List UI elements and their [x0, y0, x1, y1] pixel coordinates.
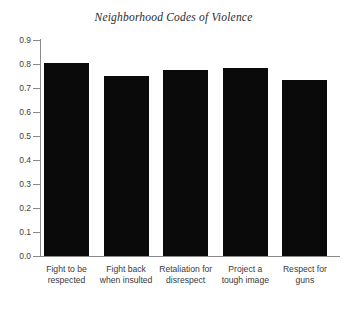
y-axis-tick — [33, 256, 40, 257]
x-axis-category-label-line: guns — [268, 275, 342, 286]
y-axis-tick-label: 0.9 — [5, 36, 31, 45]
y-axis-tick — [33, 88, 40, 89]
bar — [104, 76, 149, 256]
y-axis-tick-label: 0.1 — [5, 228, 31, 237]
y-axis-tick — [33, 208, 40, 209]
bar — [223, 68, 268, 256]
y-axis-tick — [33, 160, 40, 161]
y-axis-tick — [33, 112, 40, 113]
y-axis-tick — [33, 184, 40, 185]
bar-chart-figure: Neighborhood Codes of Violence 0.00.10.2… — [0, 0, 347, 313]
y-axis-tick-label: 0.3 — [5, 180, 31, 189]
bar — [163, 70, 208, 256]
y-axis-tick — [33, 64, 40, 65]
y-axis-tick-label: 0.5 — [5, 132, 31, 141]
y-axis-tick — [33, 136, 40, 137]
y-axis-tick-label: 0.7 — [5, 84, 31, 93]
y-axis-tick-label: 0.2 — [5, 204, 31, 213]
y-axis-tick-label: 0.0 — [5, 252, 31, 261]
y-axis-tick-label: 0.4 — [5, 156, 31, 165]
x-axis-spine — [40, 256, 340, 257]
chart-title: Neighborhood Codes of Violence — [0, 11, 347, 23]
y-axis-tick-label: 0.6 — [5, 108, 31, 117]
plot-area — [41, 40, 340, 256]
y-axis-tick-labels: 0.00.10.20.30.40.50.60.70.80.9 — [3, 0, 31, 313]
bar — [44, 63, 89, 256]
bar — [282, 80, 327, 256]
y-axis-tick — [33, 232, 40, 233]
x-axis-category-label: Respect forguns — [268, 264, 342, 286]
y-axis-tick-label: 0.8 — [5, 60, 31, 69]
y-axis-tick — [33, 40, 40, 41]
x-axis-category-label-line: Respect for — [268, 264, 342, 275]
